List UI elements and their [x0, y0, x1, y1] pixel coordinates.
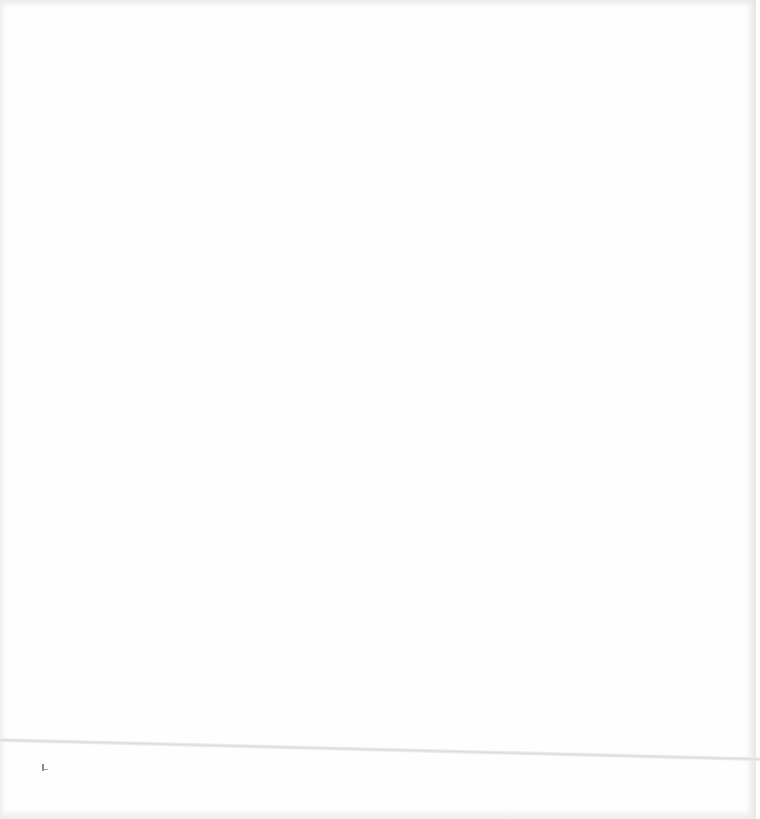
- scan-shadow-bottom: [0, 809, 756, 819]
- scan-mark-icon: [41, 764, 49, 772]
- scan-shadow-right: [746, 0, 756, 819]
- scan-shadow-top: [0, 0, 756, 8]
- horizontal-rule: [0, 738, 760, 761]
- scan-mark-stroke-horizontal: [42, 769, 48, 770]
- scan-shadow-left: [0, 0, 6, 819]
